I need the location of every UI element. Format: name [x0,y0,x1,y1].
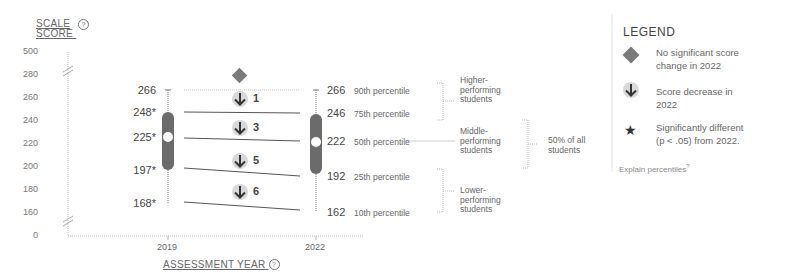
value-2019-p50: 225* [116,131,156,143]
x-tick-2019: 2019 [157,242,177,252]
label-p10: 10th percentile [354,208,410,218]
x-axis-title[interactable]: ASSESSMENT YEAR ? [163,259,280,270]
value-2022-p50: 222 [327,135,345,147]
value-2019-p75: 248* [116,106,156,118]
group-middle: Middle-performingstudents [460,127,501,156]
y-tick: 280 [10,69,38,79]
legend-item-decrease: Score decrease in2022 [656,85,733,111]
change-p25: 5 [253,154,259,166]
legend-title: LEGEND [623,25,675,39]
arrow-down-icon [232,91,248,107]
label-p50: 50th percentile [354,137,410,147]
value-2019-p90: 266 [116,84,156,96]
line-p75 [184,112,300,113]
value-2022-p10: 162 [327,206,345,218]
legend-diamond-icon [623,47,640,64]
label-p75: 75th percentile [354,109,410,119]
label-p90: 90th percentile [354,86,410,96]
diamond-icon [232,68,248,84]
bracket-fifty [522,120,528,168]
y-tick: 180 [10,184,38,194]
line-p25 [184,168,300,176]
y-tick: 200 [10,161,38,171]
legend-arrow-down-icon [623,82,639,98]
arrow-down-icon [232,184,248,200]
group-lower: Lower-performingstudents [460,186,501,215]
y-tick: 500 [10,46,38,56]
label-p25: 25th percentile [354,172,410,182]
x-tick-2022: 2022 [305,242,325,252]
value-2019-p25: 197* [116,164,156,176]
arrow-down-icon [232,153,248,169]
median-2019 [163,132,173,142]
y-tick: 220 [10,138,38,148]
change-p75: 1 [253,92,259,104]
group-fifty-percent: 50% of allstudents [548,136,585,155]
group-higher: Higher-performingstudents [460,76,501,105]
y-tick: 240 [10,115,38,125]
median-2022 [311,137,321,147]
line-p50 [184,138,300,141]
value-2022-p75: 246 [327,107,345,119]
y-tick: 0 [10,230,38,240]
line-p10 [184,202,300,210]
bracket-lower [437,169,443,212]
y-tick: 160 [10,207,38,217]
value-2019-p10: 168* [116,197,156,209]
legend-item-no-change: No significant scorechange in 2022 [656,46,739,72]
help-icon[interactable]: ? [269,259,280,270]
change-p50: 3 [253,121,259,133]
change-p10: 6 [253,185,259,197]
value-2022-p25: 192 [327,170,345,182]
value-2022-p90: 266 [327,84,345,96]
bracket-higher [437,83,443,120]
arrow-down-icon [232,120,248,136]
explain-percentiles-link[interactable]: Explain percentiles? [619,163,690,174]
legend-item-significant: Significantly different(p < .05) from 20… [656,121,744,147]
y-tick: 260 [10,92,38,102]
legend-star-icon: ★ [624,122,637,138]
